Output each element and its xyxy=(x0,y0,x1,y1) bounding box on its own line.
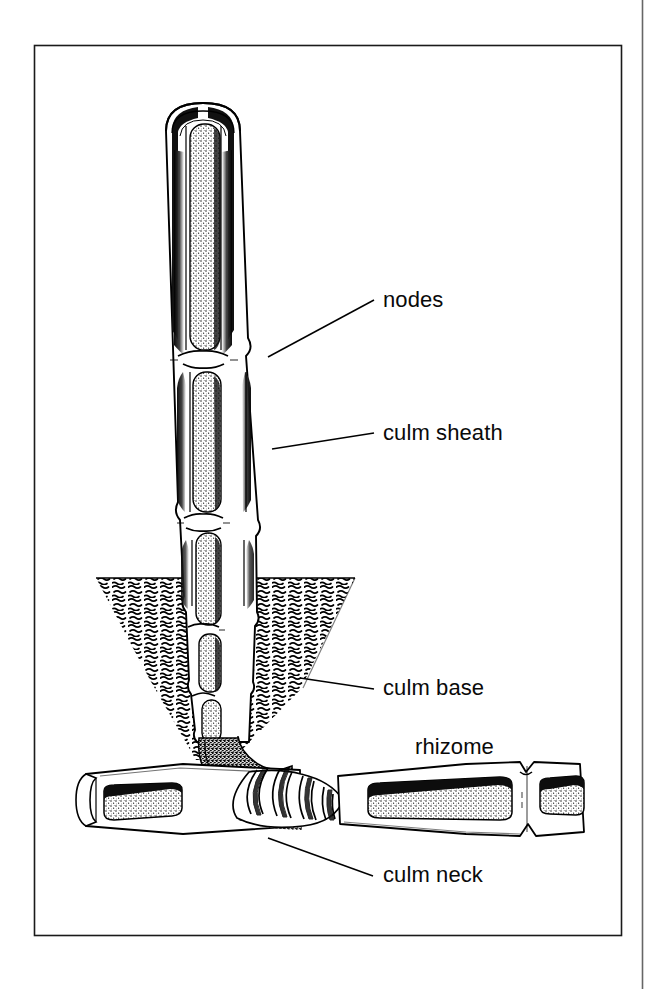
label-culm-base: culm base xyxy=(383,675,484,700)
page-background xyxy=(0,0,654,989)
label-rhizome: rhizome xyxy=(415,734,494,759)
label-culm-neck: culm neck xyxy=(383,862,484,887)
figure-canvas: nodes culm sheath culm base rhizome culm… xyxy=(0,0,654,989)
label-nodes: nodes xyxy=(383,287,443,312)
bamboo-anatomy-diagram: nodes culm sheath culm base rhizome culm… xyxy=(0,0,654,989)
label-culm-sheath: culm sheath xyxy=(383,420,503,445)
